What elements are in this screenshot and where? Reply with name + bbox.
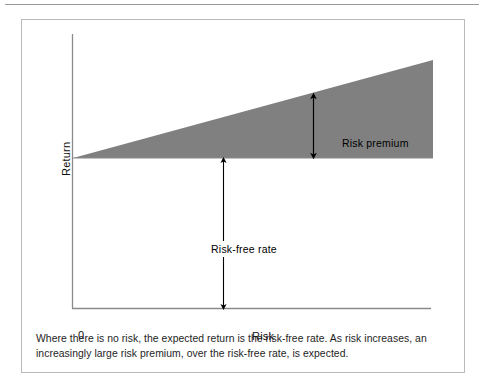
page-top-rule	[5, 4, 479, 5]
risk-free-rate-annotation: Risk-free rate	[202, 241, 286, 257]
risk-return-chart: Return 0 Risk Risk premium Risk-free rat…	[22, 20, 466, 320]
figure-frame: Return 0 Risk Risk premium Risk-free rat…	[21, 19, 465, 373]
figure-caption: Where there is no risk, the expected ret…	[22, 331, 466, 361]
y-axis-title: Return	[59, 162, 109, 176]
risk-premium-annotation: Risk premium	[342, 137, 409, 149]
